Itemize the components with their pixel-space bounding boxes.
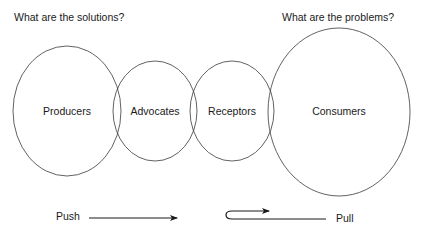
solutions-heading: What are the solutions? — [14, 11, 124, 23]
problems-heading: What are the problems? — [282, 11, 394, 23]
receptors-label: Receptors — [208, 105, 256, 117]
pull-arrow-icon — [226, 211, 326, 219]
solutions-problems-diagram: What are the solutions? What are the pro… — [0, 0, 422, 234]
consumers-label: Consumers — [312, 105, 366, 117]
pull-label: Pull — [336, 212, 354, 224]
advocates-label: Advocates — [130, 105, 179, 117]
producers-label: Producers — [43, 105, 91, 117]
push-label: Push — [56, 210, 80, 222]
